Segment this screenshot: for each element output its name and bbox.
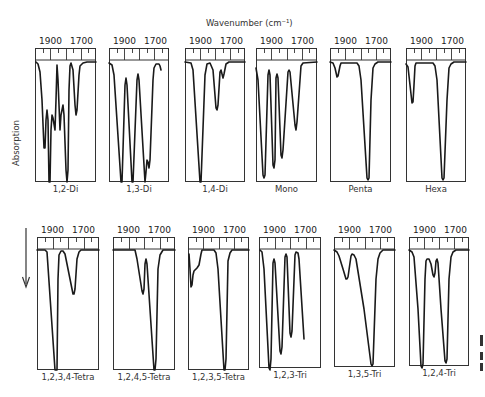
panel-label: 1,2,4,5-Tetra [104, 372, 184, 382]
tick-label-1700: 1700 [294, 225, 317, 235]
spectrum-curve [113, 250, 175, 370]
tick-label-1700: 1700 [441, 36, 464, 46]
edge-marks [478, 335, 485, 375]
spectrum-panel [185, 48, 245, 182]
spectrum-panel [409, 237, 469, 366]
y-axis-title: Absorption [11, 113, 21, 173]
spectrum-curve [334, 250, 395, 366]
tick-label-1900: 1900 [117, 225, 140, 235]
panel-label: 1,2,3,4-Tetra [28, 372, 108, 382]
tick-label-1700: 1700 [220, 36, 243, 46]
spectrum-panel [334, 237, 395, 367]
spectrum-curve [260, 250, 304, 370]
tick-label-1700: 1700 [70, 36, 93, 46]
spectrum-panel [35, 48, 96, 182]
tick-label-1900: 1900 [192, 225, 215, 235]
spectrum-curve [256, 62, 317, 178]
tick-label-1700: 1700 [148, 225, 171, 235]
panel-label: 1,4-Di [175, 184, 255, 194]
tick-label-1700: 1700 [365, 36, 388, 46]
tick-label-1900: 1900 [334, 36, 357, 46]
tick-label-1700: 1700 [444, 225, 467, 235]
panel-label: 1,2,3,5-Tetra [179, 372, 259, 382]
spectrum-curve [185, 62, 245, 182]
tick-label-1900: 1900 [39, 36, 62, 46]
tick-label-1900: 1900 [189, 36, 212, 46]
spectrum-curve [109, 63, 161, 182]
spectrum-panel [256, 48, 317, 182]
spectrum-panel [188, 237, 249, 370]
tick-label-1700: 1700 [144, 36, 167, 46]
panel-label: 1,2-Di [26, 184, 106, 194]
tick-label-1900: 1900 [41, 225, 64, 235]
tick-label-1900: 1900 [260, 36, 283, 46]
spectrum-curve [330, 62, 391, 180]
tick-label-1900: 1900 [413, 225, 436, 235]
tick-label-1700: 1700 [369, 225, 392, 235]
panel-label: Hexa [396, 184, 476, 194]
panel-label: 1,3,5-Tri [325, 369, 405, 379]
tick-label-1900: 1900 [410, 36, 433, 46]
spectrum-panel [330, 48, 391, 182]
x-axis-title: Wavenumber (cm⁻¹) [206, 18, 293, 28]
panel-label: Penta [321, 184, 401, 194]
spectrum-curve [36, 62, 96, 182]
tick-label-1900: 1900 [113, 36, 136, 46]
tick-label-1900: 1900 [338, 225, 361, 235]
spectrum-curve [37, 250, 99, 370]
panel-label: 1,2,3-Tri [250, 370, 330, 380]
spectrum-panel [109, 48, 169, 182]
panel-label: 1,3-Di [99, 184, 179, 194]
panel-label: 1,2,4-Tri [399, 368, 479, 378]
down-arrow-icon [21, 228, 31, 288]
spectrum-panel [37, 237, 99, 370]
ir-spectra-figure: Wavenumber (cm⁻¹) Absorption 190017001,2… [0, 0, 485, 397]
spectrum-panel [259, 237, 321, 368]
spectrum-curve [409, 250, 469, 368]
spectrum-curve [406, 62, 466, 180]
tick-label-1900: 1900 [263, 225, 286, 235]
panel-label: Mono [247, 184, 327, 194]
spectrum-panel [113, 237, 175, 370]
spectrum-curve [189, 250, 249, 370]
tick-label-1700: 1700 [72, 225, 95, 235]
spectrum-panel [406, 48, 466, 182]
tick-label-1700: 1700 [223, 225, 246, 235]
tick-label-1700: 1700 [291, 36, 314, 46]
